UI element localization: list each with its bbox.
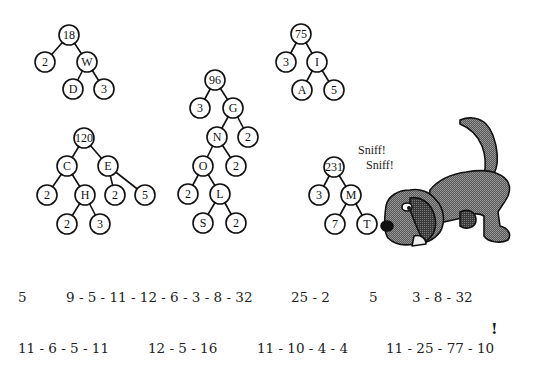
sniff-text-1: Sniff! (358, 143, 386, 158)
dog-back-paw (460, 210, 476, 228)
sniff-text-2: Sniff! (366, 158, 394, 173)
sequence-item: 25 - 2 (291, 289, 330, 305)
sequence-item: 12 - 5 - 16 (148, 340, 217, 356)
exclamation-mark: ! (491, 320, 498, 338)
sequence-item: 11 - 25 - 77 - 10 (386, 340, 494, 356)
sequence-item: 9 - 5 - 11 - 12 - 6 - 3 - 8 - 32 (66, 289, 253, 305)
sequence-item: 5 (369, 289, 378, 305)
sequence-item: 11 - 10 - 4 - 4 (257, 340, 348, 356)
sequence-item: 5 (18, 289, 27, 305)
puzzle-canvas: 182WD3120CE2H2523963GN2O22LS2753IA52313M… (0, 0, 538, 381)
dog-illustration (0, 0, 538, 381)
dog-nose (381, 221, 393, 231)
sequence-item: 3 - 8 - 32 (412, 289, 473, 305)
dog-tail (460, 118, 497, 176)
sequence-item: 11 - 6 - 5 - 11 (18, 340, 109, 356)
